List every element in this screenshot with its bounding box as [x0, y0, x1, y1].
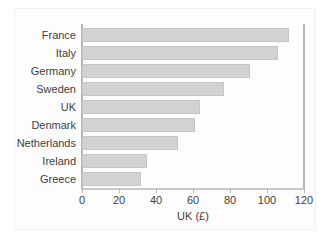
bar [82, 136, 178, 150]
x-tick-label: 40 [136, 194, 176, 206]
bar-row [82, 64, 304, 78]
category-label: Denmark [0, 118, 76, 132]
x-tick-label: 120 [284, 194, 324, 206]
category-label: France [0, 28, 76, 42]
category-label: Greece [0, 172, 76, 186]
bar-row [82, 100, 304, 114]
category-label: Netherlands [0, 136, 76, 150]
x-tick-label: 60 [173, 194, 213, 206]
x-tick-label: 0 [62, 194, 102, 206]
bar [82, 46, 278, 60]
x-tick [193, 188, 194, 193]
bar [82, 28, 289, 42]
bar [82, 82, 224, 96]
category-label: UK [0, 100, 76, 114]
bar-row [82, 28, 304, 42]
x-tick [304, 188, 305, 193]
x-tick [156, 188, 157, 193]
x-tick-label: 20 [99, 194, 139, 206]
category-label: Sweden [0, 82, 76, 96]
bar [82, 100, 200, 114]
x-tick [230, 188, 231, 193]
bar [82, 64, 250, 78]
category-label: Ireland [0, 154, 76, 168]
category-label: Germany [0, 64, 76, 78]
x-tick [267, 188, 268, 193]
bar [82, 154, 147, 168]
bar-row [82, 82, 304, 96]
bar-row [82, 172, 304, 186]
bar-row [82, 118, 304, 132]
x-tick-label: 100 [247, 194, 287, 206]
bar [82, 172, 141, 186]
x-tick [119, 188, 120, 193]
bar-row [82, 136, 304, 150]
bar [82, 118, 195, 132]
bar-row [82, 46, 304, 60]
category-label: Italy [0, 46, 76, 60]
x-axis-label: UK (£) [82, 210, 304, 222]
x-tick [82, 188, 83, 193]
x-tick-label: 80 [210, 194, 250, 206]
bar-row [82, 154, 304, 168]
chart-figure: 020406080100120 FranceItalyGermanySweden… [0, 0, 334, 241]
